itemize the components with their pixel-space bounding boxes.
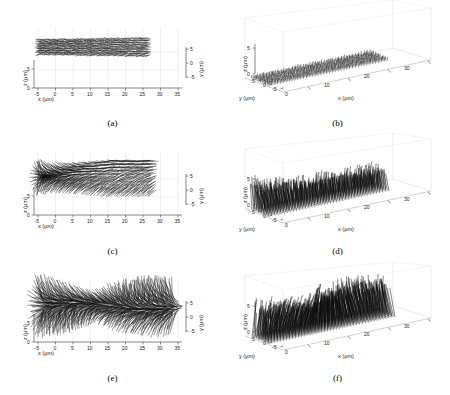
panel-c-xtick-8: 35 xyxy=(175,218,181,224)
panel-d-ytick-1: 0 xyxy=(263,213,266,219)
panel-c-caption: (c) xyxy=(0,246,225,256)
panel-c-xtick-3: 10 xyxy=(87,218,93,224)
panel-e-xtick-7: 30 xyxy=(157,345,163,351)
panel-f-yaxis-title: y (μm) xyxy=(239,353,255,359)
panel-a: -5 0 5 10 15 20 25 30 35 0 5 5 0 -5 x (μ… xyxy=(0,0,225,140)
panel-e-xtick-4: 15 xyxy=(105,345,111,351)
panel-e-yaxis-title: y (μm) xyxy=(198,315,204,331)
panel-a-ytick-0: 5 xyxy=(190,46,193,52)
panel-b: 0 10 20 30 0 5 5 0 -5 x (μm) y (μm) z (μ… xyxy=(225,0,450,140)
panel-f: 0 10 20 30 0 5 5 0 -5 x (μm) y (μm) z (μ… xyxy=(225,262,450,395)
panel-c-yaxis-title: y (μm) xyxy=(198,188,204,204)
panel-d-ytick-2: -5 xyxy=(272,217,276,223)
panel-c-xtick-4: 15 xyxy=(105,218,111,224)
panel-d-plot xyxy=(225,133,450,241)
panel-a-xtick-7: 30 xyxy=(157,91,163,97)
panel-b-box-wireframe xyxy=(245,0,431,92)
panel-f-ytick-2: -5 xyxy=(272,344,276,350)
panel-b-vector-field xyxy=(252,50,388,86)
panel-b-xtick-1: 10 xyxy=(324,82,330,88)
panel-a-vector-field xyxy=(35,37,152,57)
panel-c-xtick-2: 5 xyxy=(71,218,74,224)
panel-c-xtick-6: 25 xyxy=(140,218,146,224)
panel-e-vector-field xyxy=(27,274,182,338)
panel-c-ytick-2: -5 xyxy=(190,201,194,207)
panel-f-xtick-0: 0 xyxy=(285,349,288,355)
panel-a-zaxis-title: z (μm) xyxy=(22,70,28,86)
panel-f-xtick-1: 10 xyxy=(324,340,330,346)
panel-a-ytick-1: 0 xyxy=(190,60,193,66)
panel-a-xaxis-title: x (μm) xyxy=(38,96,54,102)
panel-c-ytick-1: 0 xyxy=(190,187,193,193)
panel-a-gridlines xyxy=(38,28,178,88)
panel-b-caption: (b) xyxy=(225,118,450,128)
panel-d-xtick-3: 30 xyxy=(404,196,410,202)
panel-c-xaxis-title: x (μm) xyxy=(38,223,54,229)
panel-b-xtick-3: 30 xyxy=(404,65,410,71)
panel-e-ytick-1: 0 xyxy=(190,314,193,320)
panel-c: -5 0 5 10 15 20 25 30 35 0 5 5 0 -5 x (μ… xyxy=(0,133,225,268)
panel-e-ytick-2: -5 xyxy=(190,328,194,334)
panel-e-xtick-5: 20 xyxy=(122,345,128,351)
panel-b-zaxis-title: z (μm) xyxy=(242,56,248,72)
panel-d-box-wireframe xyxy=(245,133,431,223)
panel-b-xtick-2: 20 xyxy=(364,73,370,79)
panel-f-xtick-2: 20 xyxy=(364,331,370,337)
panel-c-ytick-0: 5 xyxy=(190,173,193,179)
panel-a-xtick-5: 20 xyxy=(122,91,128,97)
panel-c-zaxis-title: z (μm) xyxy=(22,197,28,213)
panel-d-caption: (d) xyxy=(225,246,450,256)
panel-d-yaxis-title: y (μm) xyxy=(239,226,255,232)
panel-b-ytick-2: -5 xyxy=(272,86,276,92)
panel-a-xtick-6: 25 xyxy=(140,91,146,97)
panel-b-ytick-1: 0 xyxy=(263,82,266,88)
panel-d-xtick-1: 10 xyxy=(324,213,330,219)
panel-f-caption: (f) xyxy=(225,373,450,383)
panel-e-zaxis-title: z (μm) xyxy=(22,324,28,340)
panel-b-xaxis-title: x (μm) xyxy=(338,95,354,101)
panel-d-ztick-1: 5 xyxy=(247,176,250,182)
panel-b-xtick-0: 0 xyxy=(285,91,288,97)
panel-a-xtick-2: 5 xyxy=(71,91,74,97)
panel-d-xaxis-title: x (μm) xyxy=(338,226,354,232)
panel-e-xtick-6: 25 xyxy=(140,345,146,351)
panel-e-xaxis-title: x (μm) xyxy=(38,350,54,356)
panel-d-xtick-2: 20 xyxy=(364,204,370,210)
panel-c-xtick-5: 20 xyxy=(122,218,128,224)
panel-a-xtick-3: 10 xyxy=(87,91,93,97)
panel-b-ytick-0: 5 xyxy=(252,78,255,84)
panel-f-ytick-0: 5 xyxy=(252,336,255,342)
panel-e-xtick-2: 5 xyxy=(71,345,74,351)
panel-d-xtick-0: 0 xyxy=(285,222,288,228)
panel-d-zaxis-title: z (μm) xyxy=(242,187,248,203)
panel-e: -5 0 5 10 15 20 25 30 35 0 5 5 0 -5 x (μ… xyxy=(0,262,225,395)
figure-vector-field-panels: -5 0 5 10 15 20 25 30 35 0 5 5 0 -5 x (μ… xyxy=(0,0,450,395)
panel-d: 0 10 20 30 0 5 5 0 -5 x (μm) y (μm) z (μ… xyxy=(225,133,450,268)
panel-f-ztick-1: 5 xyxy=(247,303,250,309)
panel-e-caption: (e) xyxy=(0,373,225,383)
panel-c-vector-field xyxy=(29,159,158,197)
panel-f-xaxis-title: x (μm) xyxy=(338,353,354,359)
panel-b-yaxis-title: y (μm) xyxy=(239,95,255,101)
panel-b-ztick-1: 5 xyxy=(247,45,250,51)
panel-a-yaxis-title: y (μm) xyxy=(198,61,204,77)
panel-f-xtick-3: 30 xyxy=(404,323,410,329)
panel-e-ytick-0: 5 xyxy=(190,300,193,306)
panel-a-ytick-2: -5 xyxy=(190,74,194,80)
panel-f-ytick-1: 0 xyxy=(263,340,266,346)
panel-f-vector-field xyxy=(252,274,395,344)
panel-a-xtick-8: 35 xyxy=(175,91,181,97)
panel-d-ytick-0: 5 xyxy=(252,209,255,215)
panel-a-xtick-4: 15 xyxy=(105,91,111,97)
panel-a-caption: (a) xyxy=(0,118,225,128)
panel-e-xtick-8: 35 xyxy=(175,345,181,351)
panel-e-xtick-3: 10 xyxy=(87,345,93,351)
panel-f-zaxis-title: z (μm) xyxy=(242,314,248,330)
panel-c-xtick-7: 30 xyxy=(157,218,163,224)
